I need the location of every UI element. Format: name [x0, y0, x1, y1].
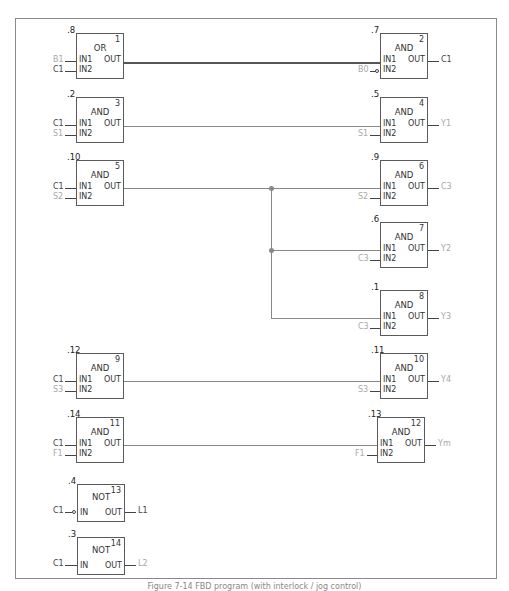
and-block-10[interactable]: AND 10 IN1 IN2 OUT	[380, 353, 428, 399]
block-number: 12	[411, 419, 421, 428]
signal-s1: S1	[358, 129, 368, 138]
not-block-14[interactable]: NOT 14 IN OUT	[77, 537, 125, 575]
not-block-13[interactable]: NOT 13 IN OUT	[77, 484, 125, 522]
signal-c1: C1	[53, 119, 64, 128]
exec-order-label: .4	[68, 476, 76, 486]
block-number: 14	[111, 539, 121, 548]
signal-y2: Y2	[441, 244, 451, 253]
output-stub	[125, 565, 136, 566]
block-number: 13	[111, 486, 121, 495]
input-stub	[65, 188, 76, 189]
input-stub	[65, 391, 76, 392]
output-stub	[428, 188, 439, 189]
input-stub	[65, 71, 76, 72]
pin-in2: IN2	[380, 449, 393, 458]
input-stub	[65, 135, 76, 136]
wire-b3-to-b4	[124, 126, 380, 127]
wire-b5-branch-vertical	[271, 188, 272, 318]
pin-out: OUT	[104, 119, 121, 128]
input-stub	[65, 61, 76, 62]
block-type: AND	[77, 170, 123, 180]
signal-s1: S1	[53, 129, 63, 138]
pin-out: OUT	[408, 182, 425, 191]
signal-y4: Y4	[441, 375, 451, 384]
pin-in2: IN2	[383, 322, 396, 331]
and-block-7[interactable]: AND 7 IN1 IN2 OUT	[380, 222, 428, 268]
block-type: AND	[381, 363, 427, 373]
input-stub	[370, 198, 380, 199]
pin-out: OUT	[105, 561, 122, 570]
input-stub	[65, 565, 77, 566]
wire-b5-to-b6	[124, 188, 380, 189]
input-stub	[65, 445, 76, 446]
block-type: AND	[381, 107, 427, 117]
pin-in2: IN2	[79, 385, 92, 394]
and-block-3[interactable]: AND 3 IN1 IN2 OUT	[76, 97, 124, 143]
block-type: AND	[381, 300, 427, 310]
pin-out: OUT	[104, 55, 121, 64]
input-stub	[370, 391, 380, 392]
and-block-2[interactable]: AND 2 IN1 IN2 OUT	[380, 33, 428, 79]
block-number: 4	[419, 99, 424, 108]
junction-dot	[269, 186, 274, 191]
block-number: 5	[115, 162, 120, 171]
pin-out: OUT	[104, 375, 121, 384]
pin-in1: IN1	[79, 375, 92, 384]
block-number: 11	[110, 419, 120, 428]
pin-in: IN	[80, 508, 88, 517]
pin-in2: IN2	[383, 192, 396, 201]
pin-in1: IN1	[383, 55, 396, 64]
and-block-6[interactable]: AND 6 IN1 IN2 OUT	[380, 160, 428, 206]
signal-ym: Ym	[438, 439, 451, 448]
output-stub	[425, 445, 436, 446]
exec-order-label: .9	[371, 152, 379, 162]
pin-in1: IN1	[383, 119, 396, 128]
input-stub	[370, 260, 380, 261]
pin-in1: IN1	[79, 439, 92, 448]
negation-circle-icon	[72, 510, 76, 514]
block-number: 7	[419, 224, 424, 233]
block-type: AND	[77, 363, 123, 373]
junction-dot	[269, 248, 274, 253]
signal-c3: C3	[441, 182, 452, 191]
block-number: 8	[419, 292, 424, 301]
signal-b1: B1	[53, 55, 64, 64]
signal-b0: B0	[358, 65, 369, 74]
pin-out: OUT	[105, 508, 122, 517]
pin-out: OUT	[408, 375, 425, 384]
input-stub	[370, 135, 380, 136]
block-type: AND	[381, 43, 427, 53]
signal-c1: C1	[53, 65, 64, 74]
pin-in2: IN2	[383, 385, 396, 394]
pin-out: OUT	[405, 439, 422, 448]
exec-order-label: .7	[371, 25, 379, 35]
pin-in2: IN2	[79, 449, 92, 458]
signal-l2: L2	[138, 559, 148, 568]
pin-in1: IN1	[380, 439, 393, 448]
block-number: 6	[419, 162, 424, 171]
block-type: AND	[77, 107, 123, 117]
pin-in1: IN1	[79, 55, 92, 64]
and-block-5[interactable]: AND 5 IN1 IN2 OUT	[76, 160, 124, 206]
signal-c1: C1	[53, 375, 64, 384]
input-stub	[65, 455, 76, 456]
pin-out: OUT	[104, 439, 121, 448]
input-stub	[367, 455, 377, 456]
input-stub	[65, 381, 76, 382]
pin-in1: IN1	[383, 312, 396, 321]
and-block-8[interactable]: AND 8 IN1 IN2 OUT	[380, 290, 428, 336]
or-block-1[interactable]: OR 1 IN1 IN2 OUT	[76, 33, 124, 79]
and-block-12[interactable]: AND 12 IN1 IN2 OUT	[377, 417, 425, 463]
and-block-4[interactable]: AND 4 IN1 IN2 OUT	[380, 97, 428, 143]
block-type: AND	[77, 427, 123, 437]
wire-b11-to-b12	[124, 445, 380, 446]
exec-order-label: .2	[67, 89, 75, 99]
and-block-11[interactable]: AND 11 IN1 IN2 OUT	[76, 417, 124, 463]
pin-in2: IN2	[79, 65, 92, 74]
input-stub	[65, 512, 72, 513]
signal-l1: L1	[138, 506, 148, 515]
input-stub	[65, 125, 76, 126]
pin-in2: IN2	[383, 129, 396, 138]
pin-in2: IN2	[79, 129, 92, 138]
and-block-9[interactable]: AND 9 IN1 IN2 OUT	[76, 353, 124, 399]
